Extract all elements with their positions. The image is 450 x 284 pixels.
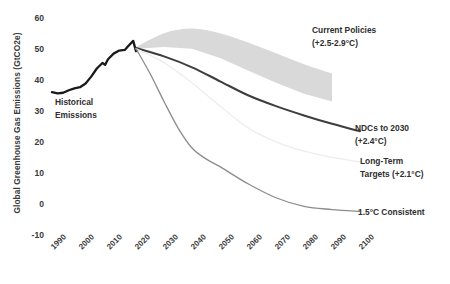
annotation-long-term-targets: Long-TermTargets (+2.1°C) <box>360 155 423 180</box>
annotation-line: Emissions <box>55 109 97 122</box>
annotation-historical-emissions: HistoricalEmissions <box>55 96 97 121</box>
annotation-line: 1.5°C Consistent <box>358 206 425 219</box>
annotation-line: (+2.5-2.9°C) <box>312 37 376 50</box>
annotation-line: Current Policies <box>312 24 376 37</box>
series-line-historical-emissions <box>52 41 139 93</box>
annotation-line: Historical <box>55 96 97 109</box>
annotation-current-policies: Current Policies(+2.5-2.9°C) <box>312 24 376 49</box>
annotation-ndcs-to-2030: NDCs to 2030(+2.4°C) <box>355 122 409 147</box>
emissions-pathways-chart: Global Greenhouse Gas Emissions (GtCO2e)… <box>0 0 450 284</box>
annotation-line: Targets (+2.1°C) <box>360 168 423 181</box>
annotation-line: NDCs to 2030 <box>355 122 409 135</box>
annotation-1p5c-consistent: 1.5°C Consistent <box>358 206 425 219</box>
annotation-line: Long-Term <box>360 155 423 168</box>
annotation-line: (+2.4°C) <box>355 135 409 148</box>
series-band-current-policies <box>136 28 332 101</box>
